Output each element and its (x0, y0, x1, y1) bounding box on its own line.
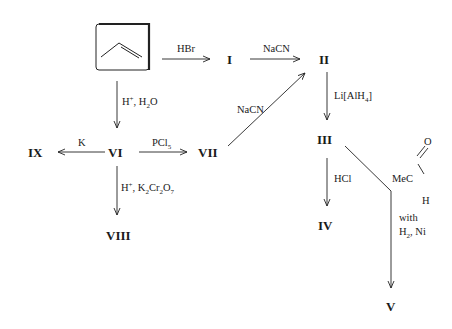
reagent-hbr: HBr (177, 44, 195, 55)
reagent-h-plus-dichromate: H+, K2Cr2O7 (121, 183, 174, 194)
reaction-arrows (0, 0, 452, 329)
reagent-nacn-1: NaCN (263, 44, 290, 55)
reagent-lialh4: Li[AlH4] (334, 91, 372, 102)
reagent-nacn-2: NaCN (237, 105, 264, 116)
acetaldehyde-structure (417, 146, 428, 174)
reagent-h-plus-h2o: H+, H2O (122, 97, 157, 108)
reagent-mecho-mec: MeC (392, 174, 413, 185)
compound-VIII: VIII (106, 229, 131, 242)
compound-V: V (386, 300, 395, 313)
compound-III: III (317, 133, 332, 146)
arrow-III-to-V (345, 146, 391, 288)
compound-II: II (319, 53, 329, 66)
reagent-h2-ni: H2, Ni (399, 227, 426, 238)
propene-structure-box (96, 24, 149, 70)
reagent-k: K (78, 138, 86, 149)
reagent-mecho-h: H (422, 196, 430, 207)
reagent-hcl: HCl (334, 174, 352, 185)
compound-I: I (227, 53, 232, 66)
compound-IX: IX (28, 146, 42, 159)
reagent-mecho-o: O (424, 137, 432, 148)
compound-IV: IV (318, 219, 332, 232)
reagent-pcl5: PCl5 (152, 138, 171, 149)
compound-VI: VI (108, 146, 122, 159)
compound-VII: VII (198, 146, 218, 159)
reagent-with: with (399, 213, 418, 224)
